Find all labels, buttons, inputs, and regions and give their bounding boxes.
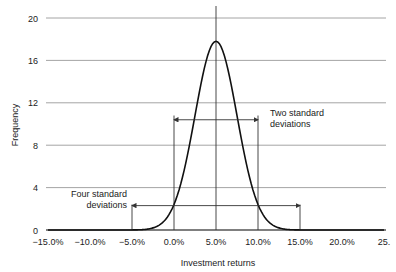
std-dev-vertical-lines <box>132 6 300 230</box>
y-axis-tick-labels: 048121620 <box>28 14 38 236</box>
x-tick-label: 15.0% <box>287 237 313 247</box>
x-axis-tick-labels: −15.0%−10.0%−5.0%0.0%5.0%10.0%15.0%20.0%… <box>33 237 391 247</box>
x-tick-label: 20.0% <box>329 237 355 247</box>
y-tick-label: 12 <box>28 98 38 108</box>
y-tick-label: 16 <box>28 56 38 66</box>
x-tick-label: 0.0% <box>164 237 185 247</box>
x-tick-label: 10.0% <box>245 237 271 247</box>
y-axis-label: Frequency <box>10 103 20 146</box>
x-tick-label: −15.0% <box>33 237 64 247</box>
annotation-two-std-line1: Two standard <box>270 108 324 118</box>
annotation-four-std-line2: deviations <box>86 200 127 210</box>
y-tick-label: 4 <box>33 183 38 193</box>
x-tick-label: −5.0% <box>119 237 145 247</box>
annotation-four-std-line1: Four standard <box>71 189 127 199</box>
x-tick-label: 25. <box>378 237 391 247</box>
x-axis-label: Investment returns <box>181 258 256 268</box>
y-tick-label: 20 <box>28 14 38 24</box>
y-tick-label: 8 <box>33 141 38 151</box>
normal-distribution-chart: 048121620 −15.0%−10.0%−5.0%0.0%5.0%10.0%… <box>0 0 396 272</box>
annotation-two-std-line2: deviations <box>270 119 311 129</box>
x-tick-label: −10.0% <box>75 237 106 247</box>
y-tick-label: 0 <box>33 226 38 236</box>
x-tick-label: 5.0% <box>206 237 227 247</box>
